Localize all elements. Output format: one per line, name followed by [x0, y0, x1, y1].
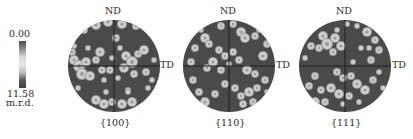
pole1-td-label: TD [160, 60, 174, 70]
colorbar-unit-label: m.r.d. [6, 98, 34, 108]
pole3-caption: {111} [331, 118, 361, 128]
pole3-td-label: TD [392, 60, 406, 70]
pole2-nd-label: ND [220, 6, 236, 16]
colorbar-min-label: 0.00 [9, 29, 30, 39]
pole-figure-100 [66, 18, 162, 114]
pole-figure-110 [181, 18, 277, 114]
pole2-caption: {110} [215, 118, 245, 128]
pole2-td-label: TD [276, 60, 290, 70]
pole1-nd-label: ND [105, 6, 121, 16]
pole-figure-111 [297, 18, 393, 114]
pole3-nd-label: ND [336, 6, 352, 16]
colorbar [19, 41, 26, 88]
pole1-caption: {100} [100, 118, 130, 128]
